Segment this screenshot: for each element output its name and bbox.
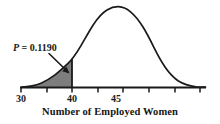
p-value-text: = 0.1190: [19, 42, 57, 53]
shaded-tail-region: [22, 59, 73, 87]
p-value-annotation: P = 0.1190: [13, 42, 57, 54]
normal-distribution-figure: P = 0.1190 30 40 45 Number of Employed W…: [0, 0, 220, 124]
x-axis-title: Number of Employed Women: [0, 106, 220, 117]
x-tick-label-30: 30: [16, 93, 26, 104]
x-tick-label-45: 45: [111, 93, 121, 104]
x-tick-label-40: 40: [67, 93, 77, 104]
